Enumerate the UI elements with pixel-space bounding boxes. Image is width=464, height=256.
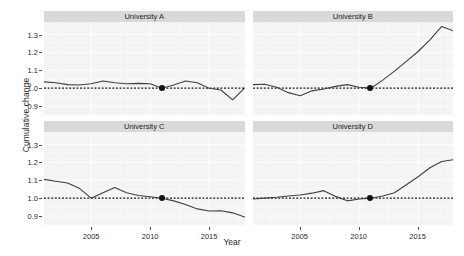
facet-panel-1: University B [253, 11, 454, 115]
chart-figure: Cumulative change 0.91.01.11.21.3 0.91.0… [0, 0, 464, 256]
facet-strip-label-3: University D [253, 121, 454, 132]
y-tick-label: 1.2 [28, 48, 38, 57]
y-tick-mark [39, 52, 42, 53]
baseline-marker-dot [367, 195, 373, 201]
x-tick-mark [150, 227, 151, 230]
baseline-marker-dot [367, 85, 373, 91]
y-tick-mark [39, 180, 42, 181]
x-tick-mark [300, 227, 301, 230]
plot-area-2 [44, 132, 245, 225]
y-tick-label: 0.9 [28, 102, 38, 111]
y-tick-label: 1.2 [28, 158, 38, 167]
x-tick-mark [359, 227, 360, 230]
baseline-marker-dot [159, 85, 165, 91]
y-tick-label: 1.3 [28, 30, 38, 39]
y-tick-label: 1.1 [28, 66, 38, 75]
plot-area-1 [253, 22, 454, 115]
y-tick-label: 0.9 [28, 212, 38, 221]
y-axis-ticks-top-row: 0.91.01.11.21.3 [8, 22, 38, 115]
y-tick-label: 1.3 [28, 140, 38, 149]
y-tick-mark [39, 106, 42, 107]
y-tick-mark [39, 70, 42, 71]
facet-grid: University A University B University C U… [44, 11, 453, 225]
facet-panel-0: University A [44, 11, 245, 115]
y-tick-mark [39, 145, 42, 146]
series-line [253, 26, 454, 95]
plot-area-0 [44, 22, 245, 115]
x-tick-mark [418, 227, 419, 230]
y-axis-ticks-bottom-row: 0.91.01.11.21.3 [8, 132, 38, 225]
y-tick-mark [39, 216, 42, 217]
y-tick-mark [39, 162, 42, 163]
x-axis-title: Year [0, 237, 464, 247]
facet-panel-3: University D [253, 121, 454, 225]
plot-area-3 [253, 132, 454, 225]
x-tick-mark [91, 227, 92, 230]
x-tick-mark [209, 227, 210, 230]
y-tick-label: 1.0 [28, 84, 38, 93]
y-tick-mark [39, 198, 42, 199]
facet-strip-label-1: University B [253, 11, 454, 22]
y-tick-label: 1.0 [28, 194, 38, 203]
y-tick-mark [39, 88, 42, 89]
facet-strip-label-2: University C [44, 121, 245, 132]
baseline-marker-dot [159, 195, 165, 201]
y-tick-mark [39, 35, 42, 36]
facet-strip-label-0: University A [44, 11, 245, 22]
y-tick-label: 1.1 [28, 176, 38, 185]
facet-panel-2: University C [44, 121, 245, 225]
